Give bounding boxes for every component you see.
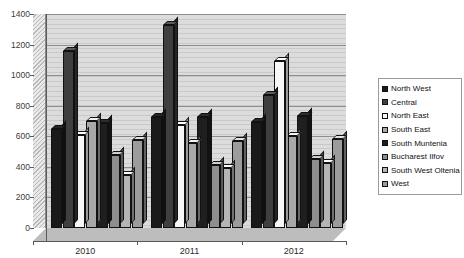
legend-swatch [382,181,388,187]
y-tick-mark [30,14,34,15]
bar-side [62,121,66,224]
legend-swatch [382,154,388,160]
bar [151,117,162,228]
legend-label: South West Oltenia [391,166,460,175]
bar-side [308,107,312,224]
y-tick-label: 400 [0,163,30,171]
plot-left-wall [33,14,46,228]
bar-side [143,132,147,224]
legend-item: South Muntenia [382,136,459,150]
bar-side [162,109,166,224]
y-tick-label: 800 [0,102,30,110]
y-tick-label: 600 [0,132,30,140]
legend-item: South East [382,123,459,137]
legend-item: North East [382,109,459,123]
x-tick-mark [242,241,243,245]
bar-side [174,17,178,224]
legend-swatch [382,127,388,133]
bar-side [343,131,347,224]
x-tick-label: 2010 [33,246,137,256]
bar-side [197,135,201,224]
y-tick-label: 0 [0,224,30,232]
legend: North WestCentralNorth EastSouth EastSou… [378,78,462,195]
legend-swatch [382,167,388,173]
bar [51,129,62,228]
bar-side [262,113,266,224]
gridline [47,14,346,15]
bar-side [320,151,324,224]
y-tick-mark [30,167,34,168]
y-tick-label: 1200 [0,41,30,49]
plot-floor [33,228,346,241]
legend-swatch [382,140,388,146]
bar-side [120,146,124,224]
bar-side [285,53,289,224]
bar-face [251,122,262,228]
legend-item: Central [382,96,459,110]
legend-label: West [391,179,409,188]
bar-side [331,155,335,224]
legend-label: Bucharest Ilfov [391,152,444,161]
x-tick-label: 2012 [242,246,346,256]
legend-label: South Muntenia [391,139,447,148]
bar-side [131,167,135,224]
y-tick-mark [30,75,34,76]
gridline [47,45,346,46]
y-tick-mark [30,45,34,46]
bar-side [108,114,112,224]
legend-item: North West [382,82,459,96]
y-tick-label: 1000 [0,71,30,79]
bar [251,122,262,228]
legend-label: North East [391,111,429,120]
bar-side [97,113,101,224]
y-tick-label: 200 [0,193,30,201]
x-tick-mark [137,241,138,245]
bar-side [85,126,89,224]
y-tick-mark [30,136,34,137]
legend-swatch [382,113,388,119]
y-tick-label: 1400 [0,10,30,18]
bar-face [51,129,62,228]
legend-item: Bucharest Ilfov [382,150,459,164]
bar-side [220,157,224,224]
legend-swatch [382,86,388,92]
bar-side [297,128,301,224]
gridline [47,106,346,107]
gridline [47,75,346,76]
plot-area [46,14,346,228]
bar-side [231,160,235,224]
bar-side [274,87,278,224]
bar-side [208,109,212,224]
legend-item: West [382,177,459,191]
legend-swatch [382,99,388,105]
bar-side [243,132,247,224]
legend-label: South East [391,125,430,134]
y-tick-mark [30,197,34,198]
bar-side [185,116,189,224]
x-axis [33,241,346,242]
y-tick-mark [30,228,34,229]
legend-item: South West Oltenia [382,164,459,178]
y-axis [46,14,47,241]
legend-label: Central [391,98,417,107]
x-tick-mark [346,241,347,245]
bar-side [74,42,78,224]
x-tick-mark [33,241,34,245]
legend-label: North West [391,84,431,93]
y-tick-mark [30,106,34,107]
bar-face [151,117,162,228]
bar-chart: 1400120010008006004002000 201020112012 N… [0,0,464,258]
x-tick-label: 2011 [137,246,241,256]
